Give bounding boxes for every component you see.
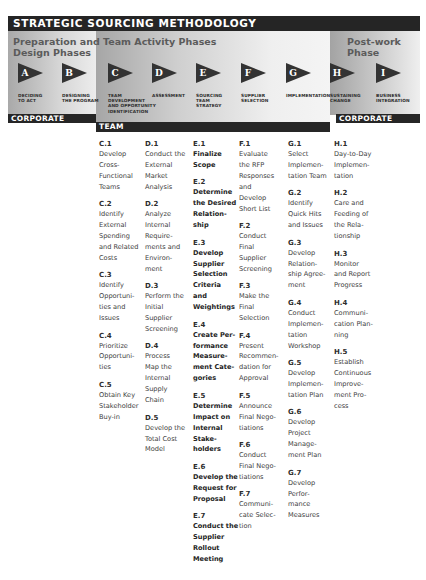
task-item: H.3Monitor and Report Progress [334,249,380,292]
step-label: Sustaining Change [330,93,361,103]
task-code: H.1 [334,139,380,149]
step-b: B Designing the Program [62,63,87,83]
task-code: F.3 [239,281,283,291]
task-code: F.6 [239,440,283,450]
task-text: Conduct Final Supplier Screening [239,231,283,275]
task-code: C.1 [99,139,143,149]
task-text: Identify Quick Hits and Issues [288,198,332,231]
task-code: E.1 [193,139,239,149]
task-item: F.5Announce Final Nego- tiations [239,391,283,434]
task-code: G.5 [288,358,332,368]
phase-title-line: Preparation and [13,37,100,48]
task-text: Develop Cross- Functional Teams [99,149,143,193]
task-code: D.5 [145,413,191,423]
task-code: F.1 [239,139,283,149]
step-label-line: Strategy [196,103,222,108]
step-label: Sourcing Team Strategy [196,93,222,109]
task-item: H.5Establish Continuous Improve- ment Pr… [334,347,380,412]
step-label: Supplier Selection [241,93,269,103]
task-item: G.1Select Implemen- tation Team [288,139,332,182]
task-item: H.4Communi- cation Plan- ning [334,298,380,341]
step-letter: D [152,68,166,78]
step-label-line: Change [330,98,361,103]
column-f-tasks: F.1Evaluate the RFP Responses and Develo… [239,139,283,539]
task-item: E.5Determine Impact on Internal Stake- h… [193,391,239,456]
post-work-phase-title: Post-work Phase [347,37,401,58]
task-text: Conduct Final Nego- tiations [239,450,283,483]
task-code: G.6 [288,407,332,417]
task-item: D.4Process Map the Internal Supply Chain [145,341,191,406]
task-item: E.7Conduct the Supplier Rollout Meeting [193,511,239,565]
task-code: G.1 [288,139,332,149]
step-label-line: the Program [62,98,99,103]
task-text: Develop Relation- ship Agree- ment [288,248,332,292]
task-code: G.4 [288,298,332,308]
task-item: F.4Present Recommen- dation for Approval [239,331,283,385]
step-letter: A [18,68,32,78]
step-label-line: Implementation [286,93,330,98]
task-item: G.3Develop Relation- ship Agree- ment [288,238,332,292]
task-item: C.1Develop Cross- Functional Teams [99,139,143,193]
task-text: Develop Supplier Selection Criteria and … [193,248,239,313]
task-item: E.4Create Per- formance Measure- ment Ca… [193,320,239,385]
column-c-tasks: C.1Develop Cross- Functional Teams C.2Id… [99,139,143,429]
task-code: H.3 [334,249,380,259]
step-letter: G [286,68,300,78]
task-text: Evaluate the RFP Responses and Develop S… [239,149,283,214]
task-item: G.6Develop Project Manage- ment Plan [288,407,332,461]
task-item: D.2Analyze Internal Require- ments and E… [145,199,191,274]
team-phase-title: Team Activity Phases [103,37,216,48]
step-letter: B [62,68,76,78]
task-code: C.2 [99,199,143,209]
step-letter: H [330,68,344,78]
task-text: Care and Feeding of the Rela- tionship [334,198,380,242]
task-code: E.2 [193,177,239,187]
task-item: E.3Develop Supplier Selection Criteria a… [193,238,239,313]
step-f: F Supplier Selection [241,63,266,83]
task-item: H.1Day-to-Day Implemen- tation [334,139,380,182]
task-text: Conduct the Supplier Rollout Meeting [193,521,239,565]
team-bar: TEAM [96,122,330,132]
task-item: G.7Develop Perfor- mance Measures [288,468,332,522]
task-item: F.7Communi- cate Selec- tion [239,489,283,532]
task-text: Communi- cation Plan- ning [334,308,380,341]
step-c: C Team Development and Opportunity Ident… [108,63,133,83]
task-code: D.1 [145,139,191,149]
phase-title-line: Post-work [347,37,401,48]
task-code: E.6 [193,462,239,472]
task-text: Develop the Request for Proposal [193,472,239,505]
task-code: G.7 [288,468,332,478]
task-code: E.3 [193,238,239,248]
task-text: Obtain Key Stakeholder Buy-in [99,390,143,423]
step-label: Designing the Program [62,93,99,103]
task-text: Develop Perfor- mance Measures [288,478,332,522]
task-code: G.3 [288,238,332,248]
task-code: D.2 [145,199,191,209]
task-item: C.3Identify Opportuni- ties and Issues [99,270,143,324]
step-letter: C [108,68,122,78]
task-text: Communi- cate Selec- tion [239,499,283,532]
task-code: D.4 [145,341,191,351]
task-text: Announce Final Nego- tiations [239,401,283,434]
task-item: E.1Finalize Scope [193,139,239,171]
task-item: F.3Make the Final Selection [239,281,283,324]
task-code: E.4 [193,320,239,330]
task-item: C.5Obtain Key Stakeholder Buy-in [99,380,143,423]
column-e-tasks: E.1Finalize Scope E.2Determine the Desir… [193,139,239,571]
step-label-line: and Opportunity [108,103,156,108]
step-e: E Sourcing Team Strategy [196,63,221,83]
step-letter: E [196,68,210,78]
task-item: C.2Identify External Spending and Relate… [99,199,143,264]
step-label-line: Integration [376,98,410,103]
column-h-tasks: H.1Day-to-Day Implemen- tation H.2Care a… [334,139,380,418]
step-label-line: Identification [108,109,156,114]
phase-title-line: Phase [347,48,401,59]
task-item: G.2Identify Quick Hits and Issues [288,188,332,231]
task-text: Conduct Implemen- tation Workshop [288,308,332,352]
task-code: F.2 [239,221,283,231]
task-code: E.5 [193,391,239,401]
task-item: G.4Conduct Implemen- tation Workshop [288,298,332,352]
task-item: E.2Determine the Desired Relation- ship [193,177,239,231]
step-label-line: Selection [241,98,269,103]
task-text: Process Map the Internal Supply Chain [145,351,191,406]
